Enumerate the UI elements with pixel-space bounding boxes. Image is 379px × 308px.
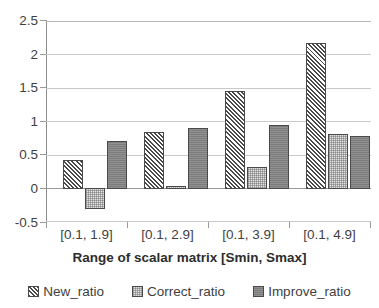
y-axis-tick-label: 2: [30, 48, 38, 62]
bar-improve-ratio-group-1: [107, 141, 127, 189]
x-axis-category-label-3: [0.1, 3.9]: [208, 228, 289, 242]
legend-swatch-solid-icon: [253, 286, 264, 297]
legend-item-improve-ratio: Improve_ratio: [253, 285, 351, 299]
legend-label-correct-ratio: Correct_ratio: [147, 285, 225, 299]
bar-new-ratio-group-1: [63, 160, 83, 189]
bar-new-ratio-group-2: [144, 132, 164, 189]
bar-new-ratio-group-4: [306, 43, 326, 189]
bar-new-ratio-group-3: [225, 91, 245, 189]
legend-item-correct-ratio: Correct_ratio: [132, 285, 225, 299]
bar-correct-ratio-group-3: [247, 167, 267, 189]
y-axis-tick-label: 0.5: [19, 148, 38, 162]
y-axis-tick-label: -0.5: [15, 216, 38, 230]
chart-legend: New_ratio Correct_ratio Improve_ratio: [0, 285, 379, 299]
x-axis-separator: [370, 222, 371, 228]
x-axis-category-label-4: [0.1, 4.9]: [289, 228, 370, 242]
bar-correct-ratio-group-1: [85, 188, 105, 209]
bar-improve-ratio-group-2: [188, 128, 208, 189]
bar-improve-ratio-group-3: [269, 125, 289, 189]
legend-swatch-stipple-icon: [132, 286, 143, 297]
legend-item-new-ratio: New_ratio: [28, 285, 104, 299]
bar-improve-ratio-group-4: [350, 136, 370, 189]
legend-label-new-ratio: New_ratio: [43, 285, 104, 299]
x-axis-category-label-2: [0.1, 2.9]: [127, 228, 208, 242]
y-axis-tick-label: 2.5: [19, 14, 38, 28]
legend-swatch-hatch-icon: [28, 286, 39, 297]
y-axis-tick-label: 1: [30, 115, 38, 129]
bar-correct-ratio-group-4: [328, 134, 348, 189]
plot-area: [46, 21, 371, 222]
bar-chart: 2.5 2 1.5 1 0.5 0 -0.5 [0.1, 1.9]: [0, 0, 379, 308]
gridline-2-5: [46, 21, 371, 22]
x-axis-title: Range of scalar matrix [Smin, Smax]: [0, 251, 379, 265]
y-axis-tick-label: 1.5: [19, 81, 38, 95]
bar-correct-ratio-group-2: [166, 186, 186, 189]
x-axis-category-label-1: [0.1, 1.9]: [46, 228, 127, 242]
legend-label-improve-ratio: Improve_ratio: [268, 285, 351, 299]
y-axis-tick-label: 0: [30, 182, 38, 196]
